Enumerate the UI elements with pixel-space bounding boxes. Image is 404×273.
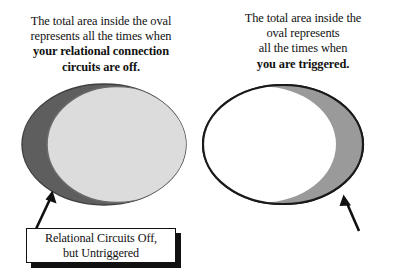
- callout-left-line-1: Relational Circuits Off,: [27, 231, 175, 246]
- panel-left: The total area inside the oval represent…: [0, 0, 202, 273]
- oval-stage-right: [202, 0, 404, 273]
- callout-arrow-right: [340, 195, 360, 232]
- callout-arrow-left: [36, 191, 57, 230]
- diagram-page: { "diagram": { "title_hidden": "", "colo…: [0, 0, 404, 273]
- callout-left[interactable]: Relational Circuits Off, but Untriggered: [26, 228, 176, 263]
- oval-left-inner: [47, 87, 187, 203]
- callout-left-line-2: but Untriggered: [27, 246, 175, 261]
- panel-right: The total area inside the oval represent…: [202, 0, 404, 273]
